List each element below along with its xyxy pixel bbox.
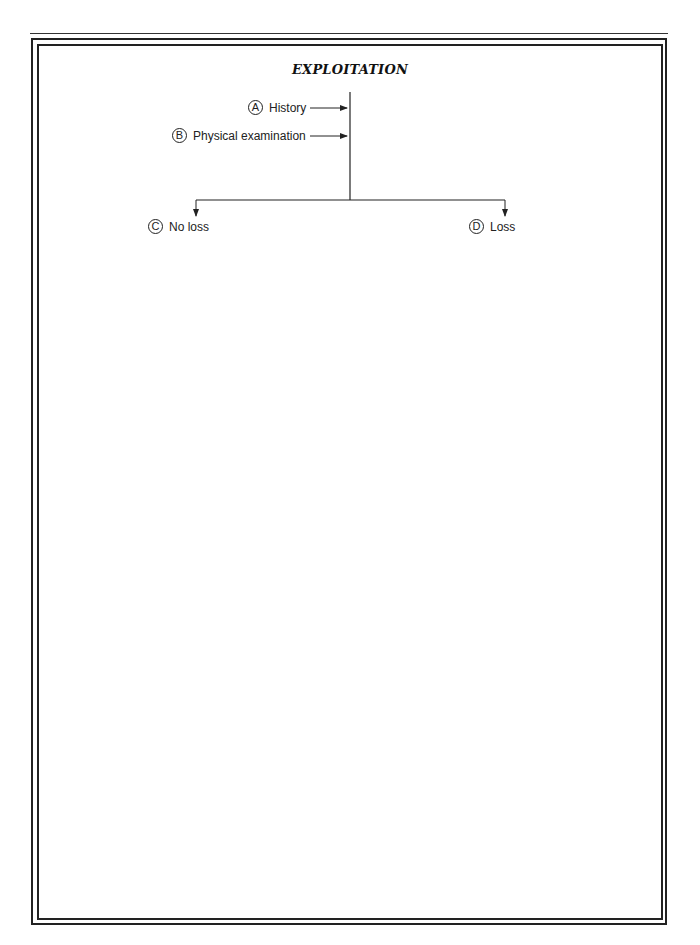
node-history: A History [248, 100, 306, 115]
node-no-loss: C No loss [148, 219, 209, 234]
circle-letter-a: A [248, 100, 263, 115]
node-label: No loss [169, 220, 209, 234]
circle-letter-d: D [469, 219, 484, 234]
flowchart-connectors [0, 0, 700, 945]
node-label: History [269, 101, 306, 115]
circle-letter-b: B [172, 128, 187, 143]
node-label: Loss [490, 220, 515, 234]
node-label: Physical examination [193, 129, 306, 143]
node-loss: D Loss [469, 219, 515, 234]
node-physical-examination: B Physical examination [172, 128, 306, 143]
circle-letter-c: C [148, 219, 163, 234]
